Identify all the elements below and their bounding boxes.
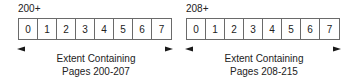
page-cell: 5 [282,19,301,39]
page-cell: 6 [301,19,320,39]
extent-caption: Extent Containing Pages 200-207 [18,52,174,78]
page-cell: 1 [206,19,225,39]
page-cells: 0 1 2 3 4 5 6 7 [186,18,340,40]
extent-1: 200+ 0 1 2 3 4 5 6 7 Extent Containing P… [18,0,178,84]
page-cell: 3 [76,19,95,39]
page-cell: 1 [38,19,57,39]
page-cell: 0 [19,19,38,39]
page-cell: 0 [187,19,206,39]
caption-line-1: Extent Containing [18,52,174,65]
page-cell: 3 [244,19,263,39]
extent-2: 208+ 0 1 2 3 4 5 6 7 Extent Containing P… [186,0,346,84]
caption-line-1: Extent Containing [186,52,342,65]
page-cell: 7 [152,19,171,39]
page-cell: 2 [57,19,76,39]
caption-line-2: Pages 208-215 [186,65,342,78]
caption-line-2: Pages 200-207 [18,65,174,78]
page-cell: 4 [95,19,114,39]
page-cell: 6 [133,19,152,39]
page-cell: 4 [263,19,282,39]
extent-caption: Extent Containing Pages 208-215 [186,52,342,78]
extent-start-label: 208+ [186,3,209,14]
page-cell: 7 [320,19,339,39]
page-cell: 2 [225,19,244,39]
extent-start-label: 200+ [18,3,41,14]
page-cells: 0 1 2 3 4 5 6 7 [18,18,172,40]
page-cell: 5 [114,19,133,39]
